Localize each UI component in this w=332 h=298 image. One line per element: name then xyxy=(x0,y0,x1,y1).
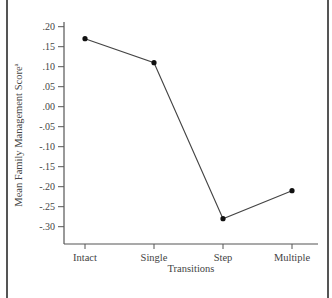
series-line xyxy=(85,39,292,219)
y-ticks: .20.15.10.05.00-.05-.10-.15-.20-.25-.30 xyxy=(39,21,64,232)
data-point-marker xyxy=(82,36,87,41)
y-axis-title-superscript: a xyxy=(12,62,20,66)
x-tick-label-step: Step xyxy=(214,252,233,263)
data-series xyxy=(82,36,294,221)
x-tick-label-multiple: Multiple xyxy=(274,252,311,263)
data-point-marker xyxy=(220,216,225,221)
y-axis-title: Mean Family Management Scorea xyxy=(12,62,24,206)
x-axis-title: Transitions xyxy=(168,263,215,274)
y-tick-label: -.30 xyxy=(39,221,55,232)
data-point-marker xyxy=(289,188,294,193)
y-tick-label: -.25 xyxy=(39,201,55,212)
y-tick-label: -.05 xyxy=(39,121,55,132)
y-tick-label: -.10 xyxy=(39,141,55,152)
y-tick-label: -.20 xyxy=(39,181,55,192)
y-tick-label: .10 xyxy=(43,61,56,72)
y-tick-label: -.15 xyxy=(39,161,55,172)
x-ticks: IntactSingleStepMultiple xyxy=(73,244,310,263)
y-tick-label: .05 xyxy=(43,81,56,92)
y-tick-label: .00 xyxy=(43,101,56,112)
x-tick-label-single: Single xyxy=(141,252,168,263)
x-tick-label-intact: Intact xyxy=(73,252,97,263)
data-point-marker xyxy=(151,60,156,65)
y-tick-label: .20 xyxy=(43,21,56,32)
y-tick-label: .15 xyxy=(43,41,56,52)
axes xyxy=(64,22,318,244)
